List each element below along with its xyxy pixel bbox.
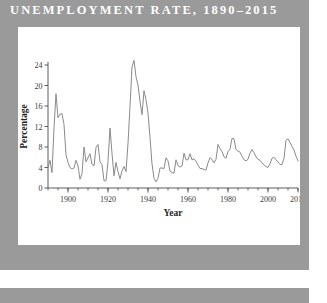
y-tick-label: 8	[39, 143, 43, 152]
page-title: UNEMPLOYMENT RATE, 1890–2015	[10, 1, 309, 21]
y-tick-label: 20	[35, 82, 43, 91]
y-tick-label: 16	[35, 102, 43, 111]
y-tick-label: 24	[35, 61, 43, 70]
x-tick-label: 1920	[100, 195, 116, 204]
x-tick-label: 1980	[220, 195, 236, 204]
x-tick-label: 1960	[180, 195, 196, 204]
unemployment-series-line	[48, 60, 298, 181]
chart-card: 048121620241900192019401960198020002015Y…	[18, 27, 300, 245]
x-axis-label: Year	[164, 208, 184, 218]
x-tick-label: 1900	[60, 195, 76, 204]
y-axis-label: Percentage	[19, 104, 29, 149]
y-tick-label: 0	[39, 184, 43, 193]
x-tick-label: 2015	[290, 195, 300, 204]
x-tick-label: 1940	[140, 195, 156, 204]
y-tick-label: 12	[35, 123, 43, 132]
y-tick-label: 4	[39, 164, 43, 173]
unemployment-line-chart: 048121620241900192019401960198020002015Y…	[18, 27, 300, 245]
screenshot-root: UNEMPLOYMENT RATE, 1890–2015 04812162024…	[0, 0, 327, 303]
chart-svg: 048121620241900192019401960198020002015Y…	[18, 27, 300, 245]
x-tick-label: 2000	[260, 195, 276, 204]
gray-band-middle	[0, 253, 309, 270]
gray-band-bottom	[0, 288, 309, 303]
